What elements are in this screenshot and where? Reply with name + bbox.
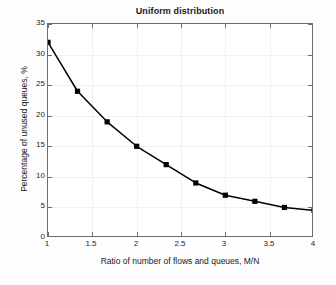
data-point-marker (223, 193, 228, 198)
y-axis-title: Percentage of unused queues, % (19, 22, 29, 236)
y-tick-label: 5 (41, 202, 45, 210)
series-markers (47, 40, 313, 213)
data-point-marker (282, 205, 287, 210)
y-tick-label: 20 (36, 111, 45, 119)
x-tick-label: 2 (121, 240, 151, 248)
chart-figure: Uniform distribution 05101520253035 11.5… (0, 0, 336, 285)
data-point-marker (47, 40, 51, 45)
series-line (48, 42, 313, 210)
data-point-marker (311, 208, 313, 213)
data-point-marker (134, 144, 139, 149)
chart-title: Uniform distribution (47, 6, 313, 16)
data-point-marker (252, 199, 257, 204)
x-tick-label: 1 (32, 240, 62, 248)
y-tick-label: 10 (36, 172, 45, 180)
x-axis-title: Ratio of number of flows and queues, M/N (47, 256, 313, 266)
plot-area (47, 23, 313, 237)
x-tick-label: 4 (298, 240, 328, 248)
data-point-marker (105, 119, 110, 124)
y-tick-label: 25 (36, 80, 45, 88)
x-tick-label: 2.5 (165, 240, 195, 248)
y-tick-label: 30 (36, 50, 45, 58)
x-tick-label: 3.5 (254, 240, 284, 248)
data-point-marker (75, 89, 80, 94)
y-tick-label: 35 (36, 19, 45, 27)
data-series-uniform-distribution (48, 24, 313, 237)
data-point-marker (193, 180, 198, 185)
data-point-marker (164, 162, 169, 167)
x-tick-label: 3 (209, 240, 239, 248)
y-tick-label: 15 (36, 141, 45, 149)
x-tick-label: 1.5 (76, 240, 106, 248)
